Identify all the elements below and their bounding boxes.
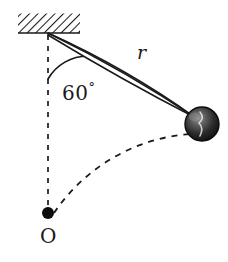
swing-path-arc	[54, 134, 190, 213]
origin-dot	[42, 207, 54, 219]
degree-symbol: °	[88, 80, 95, 95]
angle-value: 60	[62, 81, 88, 105]
pendulum-bob	[185, 107, 219, 141]
ceiling-support	[18, 13, 80, 33]
angle-label: 60°	[62, 81, 95, 103]
origin-label: O	[40, 226, 56, 246]
pendulum-drawing	[0, 0, 228, 262]
pendulum-rod	[48, 33, 197, 119]
pendulum-figure: 60° r O	[0, 0, 228, 262]
radius-label: r	[137, 43, 146, 62]
angle-arc	[48, 56, 88, 79]
